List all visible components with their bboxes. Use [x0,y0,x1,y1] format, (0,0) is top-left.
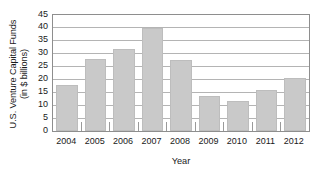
bar[interactable] [284,78,306,131]
x-axis-tick-labels: 200420052006200720082009201020112012 [52,136,310,148]
y-axis-tick-label: 30 [30,48,48,57]
y-axis-tick-label: 5 [30,113,48,122]
bar[interactable] [56,85,78,131]
y-axis-tick-label: 40 [30,22,48,31]
bar[interactable] [85,59,107,131]
bar-slot [110,15,138,131]
bar-slot [195,15,223,131]
bar[interactable] [113,49,135,131]
bar-slot [281,15,309,131]
x-axis-tick-label: 2005 [80,136,108,147]
y-axis-title-line-2: (in $ billions) [19,4,30,144]
bar[interactable] [199,96,221,131]
x-axis-tick-label: 2006 [109,136,137,147]
bar[interactable] [170,60,192,131]
y-axis-tick-label: 35 [30,35,48,44]
y-axis-tick-label: 45 [30,10,48,19]
bar-slot [53,15,81,131]
x-axis-tick-label: 2008 [166,136,194,147]
bar[interactable] [227,101,249,131]
bar-chart-figure: U.S. Venture Capital Funds (in $ billion… [0,0,315,185]
bar-slot [81,15,109,131]
x-axis-tick-label: 2012 [280,136,308,147]
y-axis-tick-label: 10 [30,100,48,109]
x-axis-tick-label: 2011 [251,136,279,147]
bar-slot [252,15,280,131]
bar-slot [138,15,166,131]
x-axis-tick-label: 2004 [52,136,80,147]
y-axis-tick-label: 0 [30,126,48,135]
x-axis-tick-label: 2009 [194,136,222,147]
x-axis-title: Year [52,156,310,167]
bar[interactable] [256,90,278,131]
x-axis-tick-label: 2007 [137,136,165,147]
bars-layer [53,15,309,131]
bar[interactable] [142,28,164,131]
y-axis-tick-label: 20 [30,74,48,83]
bar-slot [167,15,195,131]
y-axis-tick-labels: 051015202530354045 [30,14,48,132]
x-axis-tick-label: 2010 [223,136,251,147]
plot-area [52,14,310,132]
y-axis-tick-label: 25 [30,61,48,70]
y-axis-title-line-1: U.S. Venture Capital Funds [8,4,19,144]
y-axis-tick-label: 15 [30,87,48,96]
bar-slot [224,15,252,131]
